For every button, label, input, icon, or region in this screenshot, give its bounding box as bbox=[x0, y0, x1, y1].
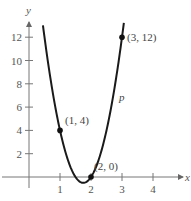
parabola-curve bbox=[43, 23, 124, 183]
y-axis-label: y bbox=[25, 4, 31, 16]
x-axis-label: x bbox=[184, 171, 190, 183]
x-tick-label: 1 bbox=[57, 183, 63, 195]
x-tick-label: 2 bbox=[88, 183, 94, 195]
ticks: 123424681012 bbox=[11, 31, 156, 195]
parabola-chart: x y 123424681012 (1, 4)(2, 0)(3, 12) p bbox=[0, 0, 191, 201]
y-tick-label: 6 bbox=[17, 101, 23, 113]
x-tick-label: 3 bbox=[119, 183, 125, 195]
y-tick-label: 10 bbox=[11, 55, 23, 67]
data-point bbox=[88, 174, 94, 180]
y-tick-label: 12 bbox=[11, 31, 22, 43]
y-tick-label: 4 bbox=[17, 124, 23, 136]
point-label: (2, 0) bbox=[94, 160, 118, 173]
y-tick-label: 2 bbox=[17, 148, 23, 160]
curve-label-p: p bbox=[118, 91, 125, 103]
points: (1, 4)(2, 0)(3, 12) bbox=[57, 31, 156, 180]
data-point bbox=[119, 34, 125, 40]
data-point bbox=[57, 128, 63, 134]
y-tick-label: 8 bbox=[17, 78, 23, 90]
point-label: (1, 4) bbox=[65, 114, 89, 127]
x-tick-label: 4 bbox=[150, 183, 156, 195]
point-label: (3, 12) bbox=[127, 31, 157, 44]
